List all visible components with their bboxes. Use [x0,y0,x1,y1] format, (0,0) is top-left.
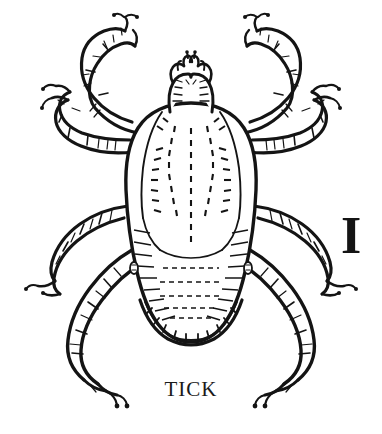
tick-drawing [0,0,382,434]
tick-illustration: TICK I [0,0,382,434]
